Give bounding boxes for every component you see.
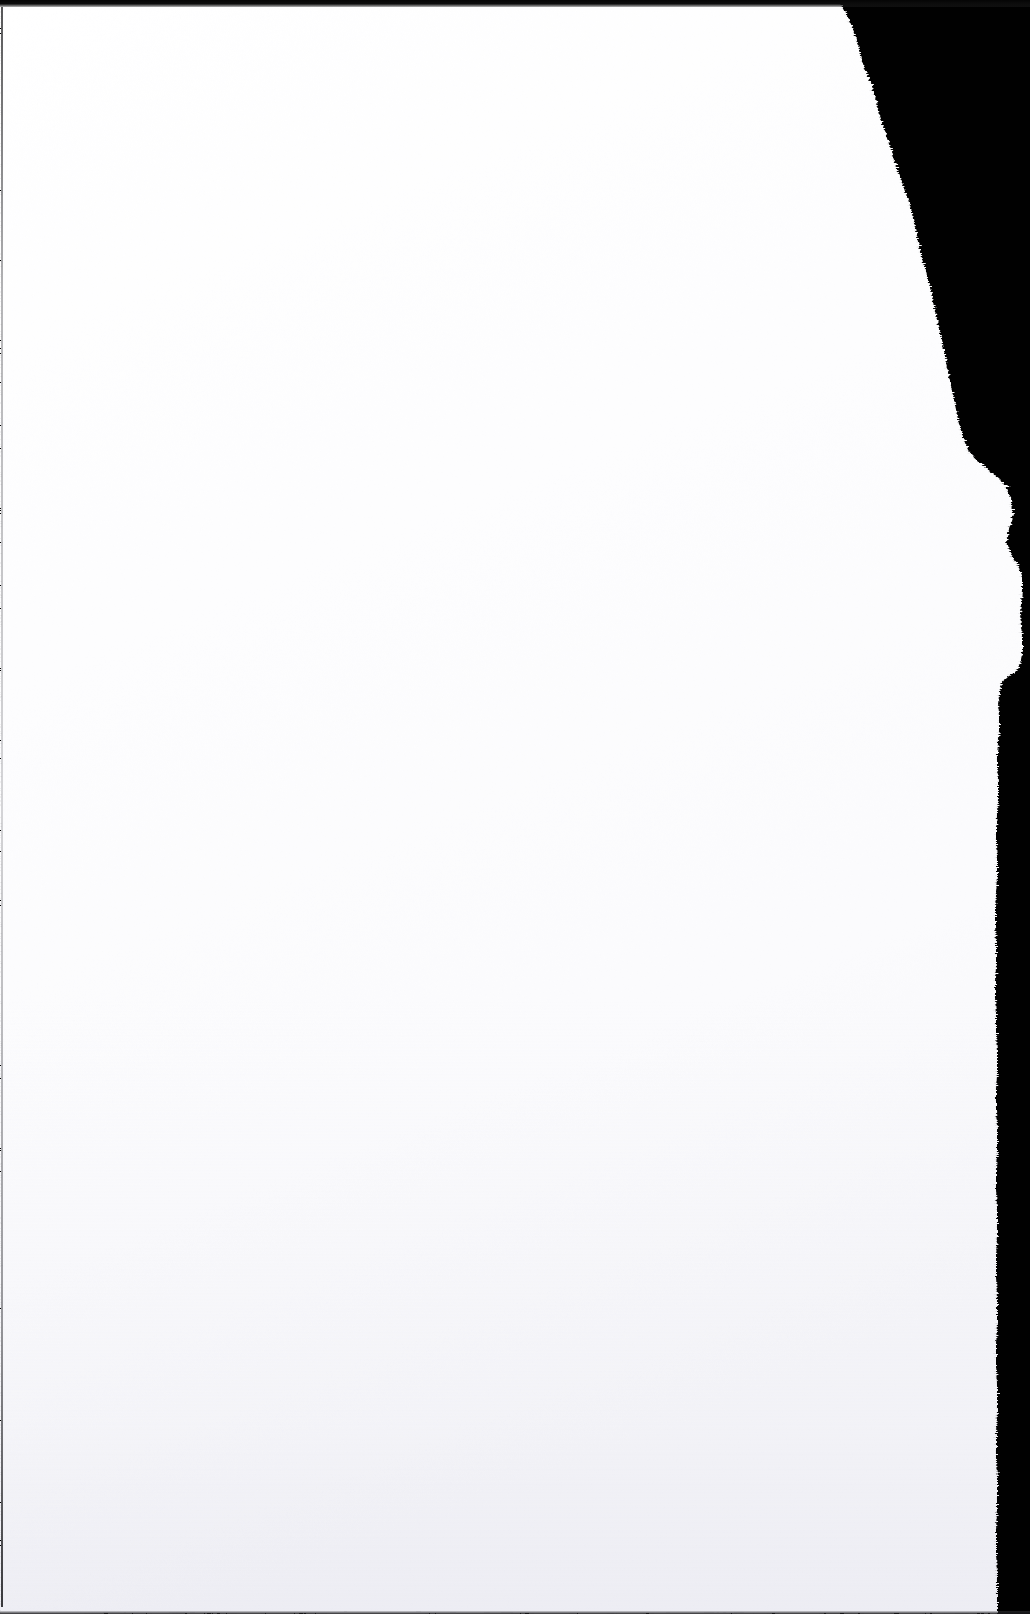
scanner-left-edge-line	[1, 7, 3, 1607]
scanner-top-band	[0, 0, 1030, 7]
torn-paper-shape	[0, 0, 1030, 1614]
scanned-page	[0, 0, 1030, 1614]
paper-sheet	[0, 0, 1030, 1614]
